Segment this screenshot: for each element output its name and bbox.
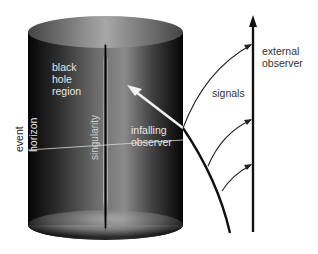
- event-label: event: [13, 126, 25, 152]
- external-arrowhead-icon: [249, 15, 257, 27]
- cylinder-top: [28, 16, 183, 48]
- signals: [183, 44, 252, 191]
- horizon-label: horizon: [27, 117, 39, 152]
- signals-label: signals: [212, 87, 245, 99]
- black-hole-diagram: black hole region event horizon singular…: [0, 0, 318, 254]
- external-worldline: [249, 15, 257, 232]
- infalling-observer-label: infalling observer: [131, 124, 172, 148]
- singularity-label: singularity: [89, 115, 100, 160]
- external-observer-label: external observer: [262, 45, 303, 69]
